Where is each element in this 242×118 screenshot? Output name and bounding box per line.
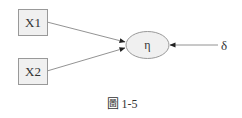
edge-x1-eta bbox=[47, 22, 125, 42]
node-eta-label: η bbox=[144, 38, 150, 52]
figure-caption: 圖 1-5 bbox=[107, 97, 138, 111]
node-x2: X2 bbox=[19, 59, 48, 85]
node-x1-label: X1 bbox=[25, 15, 41, 30]
path-diagram: X1 X2 η δ 圖 1-5 bbox=[0, 0, 242, 118]
node-x2-label: X2 bbox=[25, 64, 41, 79]
node-x1: X1 bbox=[19, 10, 48, 36]
node-delta-label: δ bbox=[221, 38, 227, 53]
edge-x2-eta bbox=[47, 48, 125, 71]
node-eta: η bbox=[126, 32, 169, 59]
